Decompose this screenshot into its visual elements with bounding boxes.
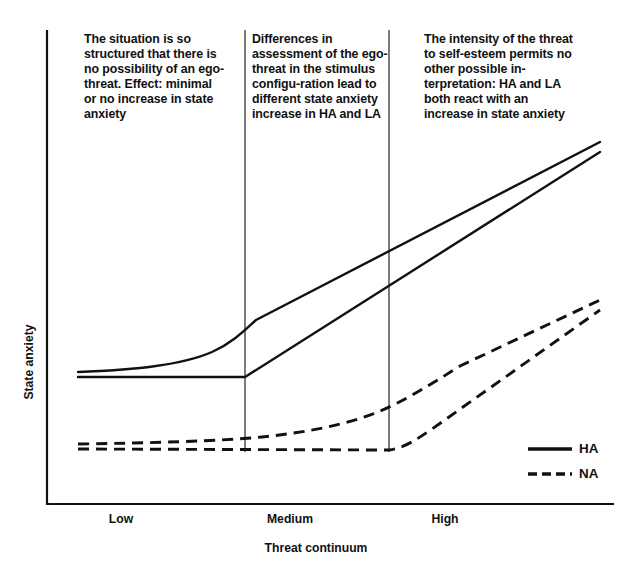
annotation-low-threat: The situation is so structured that ther… xyxy=(84,32,224,123)
series-line-ha-upper xyxy=(78,142,600,372)
annotation-medium-threat: Differences in assessment of the ego-thr… xyxy=(252,32,392,123)
x-axis-label: Threat continuum xyxy=(236,541,396,555)
annotation-high-threat: The intensity of the threat to self-este… xyxy=(424,32,574,123)
x-tick-label-medium: Medium xyxy=(245,512,335,526)
series-line-na-lower xyxy=(78,310,600,450)
x-tick-label-high: High xyxy=(400,512,490,526)
x-tick-label-low: Low xyxy=(76,512,166,526)
figure-container: The situation is so structured that ther… xyxy=(0,0,632,574)
series-line-ha-lower xyxy=(78,152,600,377)
legend-label-ha: HA xyxy=(579,441,598,456)
y-axis-label: State anxiety xyxy=(22,307,36,417)
series-line-na-upper xyxy=(78,300,600,444)
legend-label-na: NA xyxy=(579,466,598,481)
